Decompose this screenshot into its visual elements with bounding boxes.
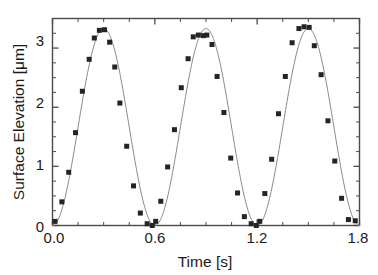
data-point (97, 28, 102, 33)
data-point (332, 159, 337, 164)
data-point (269, 157, 274, 162)
data-point (80, 89, 85, 94)
data-point (204, 33, 209, 38)
data-point (307, 25, 312, 30)
x-axis-title: Time [s] (178, 253, 233, 270)
data-point (242, 214, 247, 219)
y-axis-title: Surface Elevation [μm] (10, 44, 27, 200)
data-point (283, 74, 288, 79)
data-point (296, 26, 301, 31)
data-point (153, 219, 158, 224)
data-point (117, 101, 122, 106)
data-point (325, 118, 330, 123)
data-point (131, 183, 136, 188)
x-tick-label-3: 1.8 (348, 229, 369, 246)
data-point (319, 72, 324, 77)
y-tick-label-3: 3 (36, 32, 44, 49)
data-point (228, 156, 233, 161)
data-point (145, 221, 150, 226)
data-point (191, 34, 196, 39)
x-tick-label-1: 0.6 (145, 229, 166, 246)
data-point (107, 40, 112, 45)
data-point (53, 219, 58, 224)
y-tick-label-1: 1 (36, 156, 44, 173)
data-point (257, 219, 262, 224)
data-point (66, 170, 71, 175)
data-point (172, 127, 177, 132)
surface-elevation-chart: 3 2 1 0 0.0 0.6 1.2 1.8 Time [s] Surface… (0, 0, 378, 275)
data-point (92, 36, 97, 41)
data-point (346, 217, 351, 222)
data-point (262, 191, 267, 196)
data-point (235, 190, 240, 195)
data-point (179, 85, 184, 90)
data-point (215, 74, 220, 79)
x-tick-label-0: 0.0 (44, 229, 65, 246)
data-point (138, 211, 143, 216)
x-tick-label-2: 1.2 (247, 229, 268, 246)
data-point (59, 199, 64, 204)
data-point (353, 218, 358, 223)
data-point (186, 56, 191, 61)
data-point (165, 164, 170, 169)
data-point (73, 130, 78, 135)
data-point (196, 33, 201, 38)
data-point (302, 24, 307, 29)
data-point (209, 42, 214, 47)
data-point (221, 110, 226, 115)
figure-container: 3 2 1 0 0.0 0.6 1.2 1.8 Time [s] Surface… (0, 0, 378, 275)
y-tick-label-2: 2 (36, 94, 44, 111)
data-point (339, 196, 344, 201)
data-point (102, 27, 107, 32)
data-point (290, 40, 295, 45)
data-point (249, 221, 254, 226)
data-point (124, 144, 129, 149)
data-point (158, 199, 163, 204)
data-point (312, 43, 317, 48)
data-point (87, 57, 92, 62)
data-point (276, 111, 281, 116)
data-point (112, 65, 117, 70)
